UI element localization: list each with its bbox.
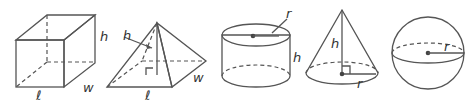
length-label: ℓ — [35, 88, 41, 102]
height-label: h — [293, 50, 301, 65]
slant-height-label: h — [123, 28, 131, 43]
solids-diagram: h w ℓ h w ℓ r h h r — [0, 0, 473, 102]
cone: h r — [306, 10, 378, 91]
width-label: w — [193, 70, 204, 85]
cylinder: r h — [222, 6, 301, 87]
rectangular-prism: h w ℓ — [16, 15, 108, 102]
length-label: ℓ — [144, 88, 150, 102]
square-pyramid: h w ℓ — [107, 23, 206, 102]
height-label: h — [100, 29, 108, 44]
radius-label: r — [357, 76, 364, 91]
height-label: h — [331, 36, 339, 51]
width-label: w — [83, 80, 94, 95]
sphere: r — [392, 17, 464, 89]
radius-label: r — [444, 39, 451, 54]
radius-label: r — [286, 6, 293, 21]
